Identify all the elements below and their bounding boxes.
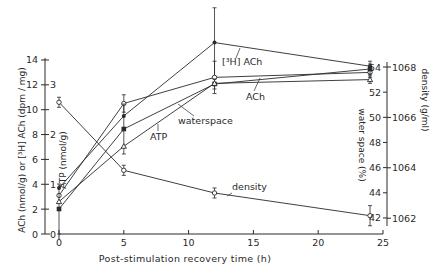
- label-waterspace: waterspace: [178, 115, 233, 126]
- marker: [122, 168, 126, 172]
- atp-tick-label: 2: [50, 129, 56, 140]
- x-tick-label: 20: [312, 237, 324, 248]
- water-tick-label: 52: [369, 87, 381, 98]
- label-3h-ach: [³H] ACh: [222, 56, 262, 67]
- water-tick-label: 44: [369, 187, 381, 198]
- series-waterspace: [56, 76, 372, 204]
- left-axis-title: ACh (nmol/g) or [³H] ACh (dpm / mg): [17, 67, 27, 233]
- left-tick-label: 4: [32, 179, 38, 190]
- x-tick-label: 5: [121, 237, 127, 248]
- x-tick-label: 15: [247, 237, 259, 248]
- atp-tick-label: 1: [50, 179, 56, 190]
- left-tick-label: 10: [26, 104, 38, 115]
- water-tick-label: 54: [369, 62, 381, 73]
- density-tick-label: 1064: [392, 162, 416, 173]
- left-tick-label: 14: [26, 54, 38, 65]
- atp-axis-title: ATP (nmol/g): [58, 131, 68, 189]
- water-tick-label: 48: [369, 137, 381, 148]
- water-tick-label: 46: [369, 162, 381, 173]
- marker: [122, 127, 127, 132]
- marker: [213, 41, 217, 45]
- left-tick-label: 8: [32, 129, 38, 140]
- water-tick-label: 50: [369, 112, 381, 123]
- marker: [57, 100, 61, 104]
- density-tick-label: 1062: [392, 213, 416, 224]
- label-atp: ATP: [150, 131, 168, 142]
- x-axis-title: Post-stimulation recovery time (h): [99, 253, 271, 264]
- density-tick-label: 1068: [392, 62, 416, 73]
- left-tick-label: 0: [32, 229, 38, 240]
- density-tick-label: 1066: [392, 112, 416, 123]
- left-tick-label: 12: [26, 79, 38, 90]
- marker: [57, 207, 62, 212]
- water-tick-label: 42: [369, 212, 381, 223]
- left-tick-label: 2: [32, 204, 38, 215]
- marker: [121, 144, 126, 149]
- chart: 024681012141230ACh (nmol/g) or [³H] ACh …: [0, 0, 444, 272]
- atp-tick-label: 3: [50, 79, 56, 90]
- x-tick-label: 25: [377, 237, 389, 248]
- marker: [212, 191, 216, 195]
- water-axis-title: water space (%): [357, 108, 367, 181]
- label-density: density: [232, 181, 267, 192]
- density-axis-title: density (g/ml): [420, 69, 430, 132]
- left-tick-label: 6: [32, 154, 38, 165]
- label-ach: ACh: [246, 91, 265, 102]
- x-tick-label: 0: [56, 237, 62, 248]
- x-tick-label: 10: [183, 237, 195, 248]
